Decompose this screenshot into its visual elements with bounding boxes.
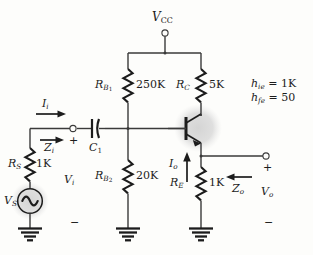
- zi-label: Zi: [44, 142, 54, 154]
- rb2-value: 20K: [136, 170, 158, 181]
- zo-arrow-head: [226, 174, 235, 181]
- rb2-label: RB2: [95, 170, 112, 184]
- input-terminal[interactable]: [70, 125, 76, 131]
- hie-value: 1K: [281, 77, 296, 90]
- vcc-label: VCC: [152, 11, 173, 25]
- rb1-label: RB1: [95, 79, 112, 93]
- vo-plus-sign: +: [263, 161, 272, 174]
- re-resistor-symbol: [196, 167, 205, 200]
- c1-subscript: 1: [97, 146, 102, 155]
- hfe-equals: =: [269, 91, 278, 104]
- hfe-value: 50: [281, 91, 295, 104]
- circuit-diagram: VCC RB1 250K RC 5K hie = 1K hfe = 50 Ii …: [0, 0, 313, 255]
- vcc-symbol: V: [152, 10, 161, 24]
- io-subscript: o: [173, 162, 177, 171]
- c1-label: C1: [89, 142, 102, 154]
- vi-plus-sign: +: [69, 134, 78, 147]
- gnd-re: [189, 229, 213, 241]
- ii-subscript: i: [46, 102, 48, 111]
- zo-label: Zo: [232, 183, 244, 195]
- re-value: 1K: [209, 177, 224, 188]
- zo-symbol: Z: [232, 182, 240, 195]
- rs-resistor-symbol: [25, 148, 34, 181]
- vi-symbol: V: [64, 173, 72, 186]
- vo-label: Vo: [261, 186, 273, 198]
- vs-label: VS: [4, 195, 17, 207]
- output-terminal[interactable]: [263, 153, 269, 159]
- zi-symbol: Z: [44, 141, 52, 154]
- zi-subscript: i: [52, 146, 54, 155]
- rc-resistor-symbol: [196, 69, 205, 102]
- rs-value: 1K: [36, 158, 51, 169]
- hfe-parameter: hfe = 50: [251, 92, 295, 104]
- re-subscript: E: [178, 181, 183, 190]
- vs-subscript: S: [12, 199, 17, 208]
- rb1-subscript2: 1: [109, 86, 113, 92]
- vo-subscript: o: [269, 190, 273, 199]
- vi-label: Vi: [64, 174, 74, 186]
- io-arrow-head: [183, 152, 191, 162]
- rc-value: 5K: [209, 79, 224, 90]
- gnd-source: [18, 229, 42, 241]
- vi-minus-sign: −: [70, 216, 79, 229]
- hie-parameter: hie = 1K: [251, 78, 296, 90]
- rc-label: RC: [176, 79, 190, 91]
- zo-subscript: o: [240, 187, 244, 196]
- io-label: Io: [169, 158, 178, 170]
- hie-subscript: ie: [258, 82, 265, 91]
- vcc-junction-dot: [164, 52, 167, 55]
- rb2-subscript2: 2: [109, 177, 113, 183]
- gnd-rb2: [116, 229, 140, 241]
- c1-right-plate: [97, 119, 99, 138]
- ii-label: Ii: [42, 98, 49, 110]
- re-label: RE: [170, 177, 184, 189]
- rs-label: RS: [8, 158, 21, 170]
- rc-subscript: C: [184, 83, 190, 92]
- vcc-terminal[interactable]: [162, 30, 168, 36]
- vcc-subscript: CC: [161, 16, 173, 25]
- vi-subscript: i: [72, 178, 74, 187]
- vs-symbol: V: [4, 194, 12, 207]
- rs-subscript: S: [16, 162, 21, 171]
- rb1-resistor-symbol: [123, 69, 132, 102]
- zi-arrow-head: [56, 137, 65, 144]
- rb1-value: 250K: [136, 79, 165, 90]
- vo-minus-sign: −: [264, 216, 273, 229]
- rb2-resistor-symbol: [123, 160, 132, 193]
- vo-symbol: V: [261, 185, 269, 198]
- ii-arrow-head: [58, 111, 67, 118]
